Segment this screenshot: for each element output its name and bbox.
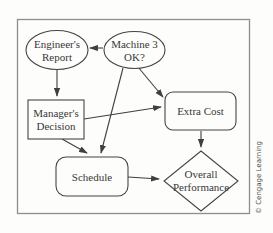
extra-cost-label: Extra Cost <box>177 105 224 117</box>
flowchart-canvas: Engineer's Report Machine 3 OK? Manager'… <box>0 0 273 233</box>
engineers-report-label-line2: Report <box>42 51 72 63</box>
edge-schedule-to-overall-performance <box>128 177 159 179</box>
edge-managers-decision-to-schedule <box>62 139 87 153</box>
engineers-report-label-line1: Engineer's <box>34 38 80 50</box>
managers-decision-label-line1: Manager's <box>33 107 78 119</box>
managers-decision-label-line2: Decision <box>36 120 76 132</box>
machine3-ok-label-line1: Machine 3 <box>111 38 158 50</box>
edge-machine3-to-extra-cost <box>138 67 163 97</box>
overall-performance-label-line1: Overall <box>185 168 218 180</box>
machine3-ok-label-line2: OK? <box>124 51 145 63</box>
schedule-label: Schedule <box>72 171 112 183</box>
flowchart-figure: Engineer's Report Machine 3 OK? Manager'… <box>0 0 273 233</box>
cengage-credit: © Cengage Learning <box>255 141 263 214</box>
overall-performance-label-line2: Performance <box>173 181 229 193</box>
edge-managers-decision-to-extra-cost <box>84 107 161 119</box>
edge-machine3-to-schedule <box>101 68 123 153</box>
engineers-report-node <box>26 31 88 70</box>
